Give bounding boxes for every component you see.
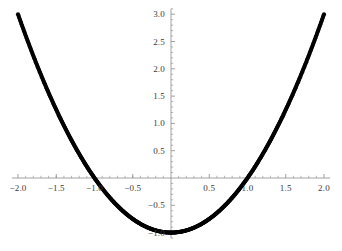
y-tick-label: 2.0 [153, 64, 165, 73]
x-tick-label: 1.5 [280, 184, 292, 193]
y-tick-label: 0.5 [153, 146, 165, 155]
plot-canvas: −2.0−1.5−1.0−0.50.51.01.52.0 3.02.52.01.… [0, 0, 342, 251]
plot-svg [0, 0, 342, 251]
data-point [322, 12, 326, 16]
x-tick-label: −1.5 [48, 184, 65, 193]
y-tick-label: 1.5 [153, 92, 165, 101]
x-tick-label: 1.0 [242, 184, 254, 193]
y-tick-label: 2.5 [153, 37, 165, 46]
x-tick-label: 0.5 [203, 184, 215, 193]
x-tick-label: −2.0 [9, 184, 26, 193]
y-tick-label: 3.0 [153, 10, 165, 19]
x-tick-label: −0.5 [124, 184, 141, 193]
y-tick-label: 1.0 [153, 119, 165, 128]
y-tick-label: −0.5 [148, 201, 165, 210]
x-tick-label: 2.0 [318, 184, 330, 193]
x-tick-label: −1.0 [86, 184, 103, 193]
y-tick-label: −1.0 [148, 228, 165, 237]
